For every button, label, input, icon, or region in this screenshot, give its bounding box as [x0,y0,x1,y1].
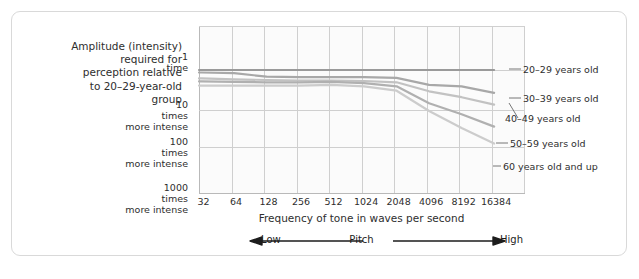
y-tick-unit: time [118,62,188,73]
x-axis-tick-label: 128 [260,196,278,207]
y-axis-tick-10: 10 times more intense [118,99,188,132]
horizontal-gridline [199,147,524,148]
y-tick-unit: times [118,193,188,204]
y-axis-tick-1000: 1000 times more intense [118,182,188,215]
x-axis-tick-label: 32 [198,196,210,207]
y-tick-unit: times [118,110,188,121]
x-axis-tick-label: 64 [230,196,242,207]
x-axis-tick-label: 1024 [354,196,378,207]
x-axis-tick-label: 512 [325,196,343,207]
x-axis-tick-label: 256 [292,196,310,207]
x-axis-label: Frequency of tone in waves per second [199,212,524,224]
y-axis-tick-1: 1 time [118,51,188,73]
y-axis-description: Amplitude (intensity) required for perce… [14,40,182,106]
pitch-high-label: High [500,234,523,245]
pitch-center-label: Pitch [349,234,373,245]
horizontal-gridline [199,110,524,111]
x-axis-tick-label: 16384 [481,196,511,207]
y-tick-value: 100 [118,136,188,147]
series-label-30-39: 30–39 years old [523,93,599,104]
y-tick-value: 10 [118,99,188,110]
series-label-60-up: 60 years old and up [503,161,598,172]
series-label-20-29: 20–29 years old [523,64,599,75]
pitch-low-label: Low [261,234,281,245]
y-tick-unit: times [118,147,188,158]
x-axis-tick-label: 2048 [387,196,411,207]
y-tick-qualifier: more intense [118,204,188,215]
y-axis-tick-100: 100 times more intense [118,136,188,169]
y-tick-qualifier: more intense [118,121,188,132]
horizontal-gridline [199,70,524,71]
series-label-50-59: 50–59 years old [510,138,586,149]
series-label-40-49: 40–49 years old [505,113,581,124]
x-axis-tick-label: 8192 [452,196,476,207]
y-tick-qualifier: more intense [118,158,188,169]
y-tick-value: 1000 [118,182,188,193]
figure-container: Amplitude (intensity) required for perce… [0,0,639,279]
pitch-axis: Low Pitch High [199,233,524,249]
y-tick-value: 1 [118,51,188,62]
x-axis-tick-label: 4096 [419,196,443,207]
